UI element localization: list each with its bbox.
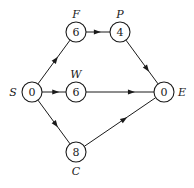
edge-s-w	[42, 89, 66, 94]
network-diagram: 0S6F4P6W8C0E	[0, 0, 194, 188]
node-label: P	[115, 8, 124, 21]
node-label: W	[70, 68, 83, 81]
node-value: 6	[73, 26, 80, 39]
edge-f-p	[86, 29, 110, 34]
arrowhead-icon	[143, 64, 149, 71]
node-label: F	[71, 8, 80, 21]
node-c: 8C	[66, 142, 86, 178]
node-w: 6W	[66, 68, 86, 103]
edge-line	[84, 98, 155, 147]
node-label: C	[72, 165, 81, 178]
arrowhead-icon	[120, 117, 127, 123]
edge-line	[126, 40, 158, 84]
node-value: 6	[73, 86, 80, 99]
node-p: 4P	[110, 8, 130, 43]
edge-p-e	[126, 40, 158, 84]
edges-group	[38, 29, 158, 146]
node-label: E	[177, 86, 186, 99]
node-label: S	[9, 86, 17, 99]
node-value: 0	[161, 86, 168, 99]
node-value: 4	[117, 26, 124, 39]
arrowhead-icon	[94, 29, 101, 34]
edge-s-f	[38, 40, 70, 84]
arrowhead-icon	[52, 120, 58, 127]
node-f: 6F	[66, 8, 86, 43]
node-value: 8	[73, 146, 80, 159]
edge-c-e	[84, 98, 155, 147]
node-e: 0E	[154, 82, 186, 102]
arrowhead-icon	[52, 89, 59, 94]
node-value: 0	[29, 86, 36, 99]
edge-s-c	[38, 100, 70, 144]
edge-w-e	[86, 89, 154, 94]
arrowhead-icon	[52, 57, 58, 64]
arrowhead-icon	[128, 89, 135, 94]
node-s: 0S	[9, 82, 42, 102]
